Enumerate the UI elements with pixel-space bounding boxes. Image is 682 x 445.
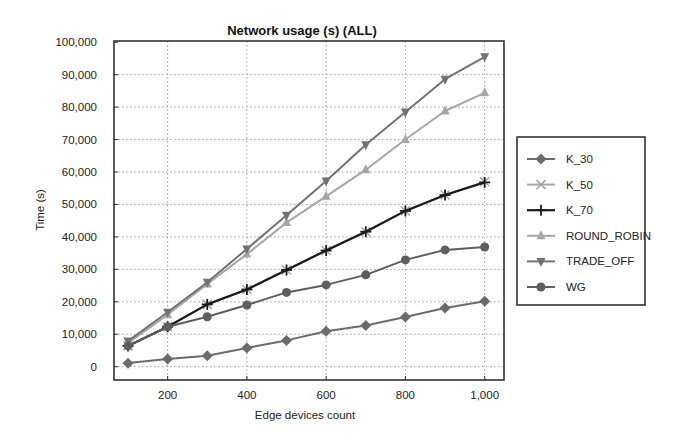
diamond-marker — [479, 296, 490, 307]
legend-label: WG — [566, 281, 586, 293]
legend-label: K_70 — [566, 204, 593, 216]
legend: K_30K_50K_70ROUND_ROBINTRADE_OFFWG — [517, 137, 651, 305]
triangle-down-marker — [401, 108, 410, 117]
triangle-up-marker — [480, 87, 489, 96]
y-tick-label: 80,000 — [62, 101, 97, 113]
diamond-marker — [281, 335, 292, 346]
triangle-up-marker — [361, 164, 370, 173]
legend-label: K_30 — [566, 153, 593, 165]
series-line — [128, 182, 485, 346]
plot-frame — [114, 41, 504, 380]
x-axis-label: Edge devices count — [255, 409, 356, 421]
circle-marker — [282, 288, 291, 297]
y-tick-label: 20,000 — [62, 296, 97, 308]
y-tick-label: 50,000 — [62, 198, 97, 210]
y-tick-label: 10,000 — [62, 328, 97, 340]
circle-marker — [401, 255, 410, 264]
diamond-marker — [123, 358, 134, 369]
diamond-marker — [162, 353, 173, 364]
y-tick-label: 40,000 — [62, 231, 97, 243]
diamond-marker — [241, 342, 252, 353]
circle-marker — [242, 301, 251, 310]
triangle-up-marker — [401, 134, 410, 143]
diamond-marker — [360, 320, 371, 331]
x-tick-label: 600 — [317, 389, 336, 401]
circle-marker — [124, 341, 133, 350]
series-line — [128, 301, 485, 363]
triangle-down-marker — [441, 76, 450, 85]
circle-marker — [203, 312, 212, 321]
y-tick-label: 60,000 — [62, 166, 97, 178]
diamond-marker — [202, 350, 213, 361]
circle-marker — [163, 322, 172, 331]
x-tick-label: 400 — [237, 389, 256, 401]
diamond-marker — [400, 312, 411, 323]
y-tick-label: 30,000 — [62, 263, 97, 275]
y-tick-label: 100,000 — [55, 36, 97, 48]
y-tick-label: 90,000 — [62, 69, 97, 81]
circle-marker — [441, 245, 450, 254]
data-series — [123, 53, 491, 368]
circle-marker — [480, 242, 489, 251]
line-chart: Network usage (s) (ALL) 010,00020,00030,… — [0, 0, 682, 445]
series-round-robin — [124, 87, 490, 347]
series-line — [128, 247, 485, 346]
circle-marker — [537, 283, 546, 292]
diamond-marker — [440, 302, 451, 313]
series-line — [128, 93, 485, 343]
y-axis-ticks: 010,00020,00030,00040,00050,00060,00070,… — [55, 36, 118, 373]
legend-label: ROUND_ROBIN — [566, 230, 651, 242]
diamond-marker — [321, 326, 332, 337]
circle-marker — [322, 280, 331, 289]
legend-label: K_50 — [566, 179, 593, 191]
series-line — [128, 182, 485, 346]
series-line — [128, 57, 485, 341]
legend-label: TRADE_OFF — [566, 255, 634, 267]
y-tick-label: 70,000 — [62, 134, 97, 146]
x-tick-label: 1,000 — [470, 389, 499, 401]
triangle-down-marker — [322, 178, 331, 187]
chart-title: Network usage (s) (ALL) — [227, 23, 377, 38]
triangle-down-marker — [242, 245, 251, 254]
grid-lines — [114, 41, 504, 380]
y-tick-label: 0 — [91, 361, 97, 373]
x-tick-label: 800 — [396, 389, 415, 401]
y-axis-label: Time (s) — [34, 189, 46, 231]
x-tick-label: 200 — [158, 389, 177, 401]
circle-marker — [361, 270, 370, 279]
